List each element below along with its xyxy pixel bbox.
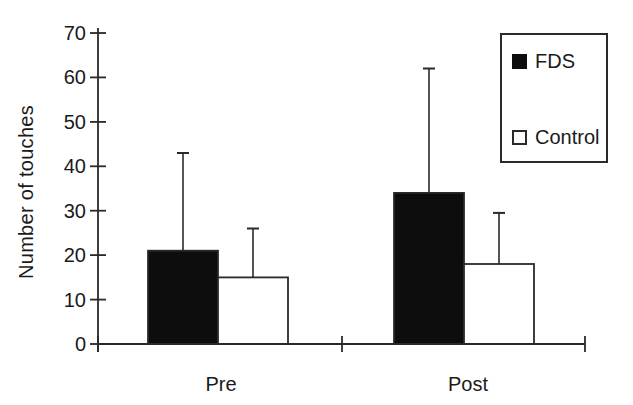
legend-label-fds: FDS	[535, 50, 575, 73]
bar-post-control	[464, 264, 534, 344]
y-axis-title: Number of touches	[15, 105, 38, 279]
y-tick-label-30: 30	[64, 200, 86, 222]
y-tick-label-20: 20	[64, 244, 86, 266]
y-tick-label-40: 40	[64, 155, 86, 177]
bar-chart-figure: 010203040506070PrePost Number of touches…	[0, 0, 633, 405]
legend: FDS Control	[500, 33, 608, 163]
y-tick-label-70: 70	[64, 22, 86, 44]
y-tick-label-0: 0	[75, 333, 86, 355]
x-category-label-post: Post	[448, 373, 488, 395]
y-tick-label-10: 10	[64, 289, 86, 311]
bar-pre-control	[218, 277, 288, 344]
x-category-label-pre: Pre	[205, 373, 236, 395]
bar-pre-fds	[148, 251, 218, 344]
legend-item-control: Control	[512, 126, 602, 149]
legend-item-fds: FDS	[512, 50, 602, 73]
bar-post-fds	[394, 193, 464, 344]
y-tick-label-50: 50	[64, 111, 86, 133]
y-tick-label-60: 60	[64, 66, 86, 88]
fds-filled-square-icon	[512, 54, 527, 69]
control-open-square-icon	[512, 130, 527, 145]
legend-label-control: Control	[535, 126, 599, 149]
